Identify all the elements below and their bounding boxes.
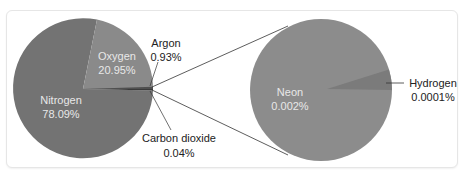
label-neon-value: 0.002% — [271, 100, 309, 112]
slice-neon[interactable] — [250, 19, 392, 161]
label-hydrogen-value: 0.0001% — [411, 91, 455, 103]
label-argon-name: Argon — [151, 37, 180, 49]
pie-of-pie-chart: Oxygen 20.95% Nitrogen 78.09% Neon 0.002… — [0, 0, 467, 176]
leader-co2 — [150, 91, 171, 130]
label-oxygen-value: 20.95% — [98, 64, 136, 76]
label-co2-name: Carbon dioxide — [142, 132, 216, 144]
main-pie — [13, 18, 153, 158]
label-neon-name: Neon — [277, 86, 303, 98]
label-co2-value: 0.04% — [163, 147, 194, 159]
secondary-pie — [250, 19, 392, 161]
label-nitrogen-name: Nitrogen — [40, 94, 82, 106]
label-argon-value: 0.93% — [150, 51, 181, 63]
label-nitrogen-value: 78.09% — [42, 108, 80, 120]
label-oxygen-name: Oxygen — [98, 50, 136, 62]
label-hydrogen-name: Hydrogen — [409, 77, 457, 89]
